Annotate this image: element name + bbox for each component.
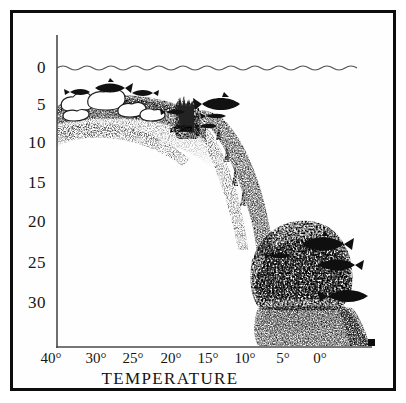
x-axis-label: TEMPERATURE bbox=[70, 369, 270, 389]
drop-off-slope bbox=[194, 110, 274, 256]
fish-stump-2 bbox=[193, 92, 240, 110]
x-tick-25: 25° bbox=[113, 350, 153, 367]
fish-shallow-3 bbox=[132, 90, 159, 96]
x-tick-15: 15° bbox=[188, 350, 228, 367]
y-tick-5: 5 bbox=[22, 96, 46, 113]
y-tick-30: 30 bbox=[22, 294, 46, 311]
x-tick-30: 30° bbox=[76, 350, 116, 367]
fish-shallow-2 bbox=[95, 78, 133, 93]
silt-basin bbox=[254, 306, 370, 346]
y-tick-15: 15 bbox=[22, 174, 46, 191]
y-tick-10: 10 bbox=[22, 134, 46, 151]
y-tick-20: 20 bbox=[22, 213, 46, 230]
x-tick-40: 40° bbox=[31, 350, 71, 367]
water-surface-line bbox=[57, 66, 357, 70]
lake-profile-illustration bbox=[0, 0, 406, 403]
x-tick-10: 10° bbox=[225, 350, 265, 367]
y-tick-0: 0 bbox=[22, 59, 46, 76]
y-tick-25: 25 bbox=[22, 254, 46, 271]
x-tick-20: 20° bbox=[151, 350, 191, 367]
axis-end-marker bbox=[368, 339, 375, 346]
x-tick-0: 0° bbox=[300, 350, 340, 367]
x-tick-5: 5° bbox=[263, 350, 303, 367]
